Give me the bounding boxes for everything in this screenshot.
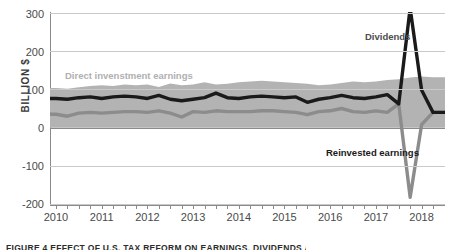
x-tick-label-2010: 2010 [31, 211, 81, 223]
x-tick-mark [307, 205, 308, 209]
x-tick-mark [273, 205, 274, 209]
gridline-200 [50, 51, 445, 52]
chart-figure: BILLION $ 300 200 100 0 -100 -200 Direct… [0, 0, 453, 250]
x-tick-label-2018: 2018 [397, 211, 447, 223]
x-tick-mark [410, 205, 411, 209]
x-tick-mark [193, 205, 194, 209]
x-tick-mark [67, 205, 68, 209]
x-tick-mark [433, 205, 434, 209]
x-tick-mark [353, 205, 354, 209]
x-tick-mark [284, 205, 285, 209]
x-tick-label-2012: 2012 [122, 211, 172, 223]
figure-caption: FIGURE 4 EFFECT OF U.S. TAX REFORM ON EA… [6, 243, 306, 250]
x-tick-mark [250, 205, 251, 209]
x-tick-label-2017: 2017 [351, 211, 401, 223]
y-tick-300: 300 [6, 8, 44, 20]
x-tick-label-2013: 2013 [168, 211, 218, 223]
x-tick-mark [364, 205, 365, 209]
y-tick-200: 200 [6, 46, 44, 58]
x-tick-mark [239, 205, 240, 209]
x-tick-mark [296, 205, 297, 209]
x-tick-mark [102, 205, 103, 209]
y-tick-100: 100 [6, 84, 44, 96]
y-tick-neg100: -100 [6, 160, 44, 172]
x-axis-spine [50, 205, 445, 206]
gridline-neg100 [50, 166, 445, 167]
direct-investment-earnings-band [50, 76, 445, 127]
annotation-direct-investment-earnings: Direct invenstment earnings [65, 70, 193, 81]
x-tick-mark [227, 205, 228, 209]
x-tick-label-2014: 2014 [214, 211, 264, 223]
gridline-300 [50, 13, 445, 14]
x-tick-mark [90, 205, 91, 209]
x-tick-label-2011: 2011 [77, 211, 127, 223]
x-tick-mark [342, 205, 343, 209]
x-tick-mark [376, 205, 377, 209]
x-tick-label-2015: 2015 [259, 211, 309, 223]
y-tick-neg200: -200 [6, 198, 44, 210]
annotation-reinvested-earnings: Reinvested earnings [326, 147, 419, 158]
gridline-zero [50, 128, 445, 129]
x-tick-mark [330, 205, 331, 209]
x-tick-mark [319, 205, 320, 209]
x-tick-mark [159, 205, 160, 209]
x-tick-mark [182, 205, 183, 209]
x-tick-mark [147, 205, 148, 209]
x-tick-mark [136, 205, 137, 209]
x-tick-mark [399, 205, 400, 209]
x-tick-mark [205, 205, 206, 209]
x-tick-mark [79, 205, 80, 209]
x-tick-mark [113, 205, 114, 209]
gridline-100 [50, 89, 445, 90]
x-tick-mark [56, 205, 57, 209]
y-tick-0: 0 [6, 122, 44, 134]
x-tick-mark [170, 205, 171, 209]
x-tick-mark [125, 205, 126, 209]
x-tick-mark [216, 205, 217, 209]
x-tick-mark [262, 205, 263, 209]
x-tick-label-2016: 2016 [305, 211, 355, 223]
annotation-dividends: Dividends [365, 31, 410, 42]
x-tick-mark [422, 205, 423, 209]
x-tick-mark [387, 205, 388, 209]
